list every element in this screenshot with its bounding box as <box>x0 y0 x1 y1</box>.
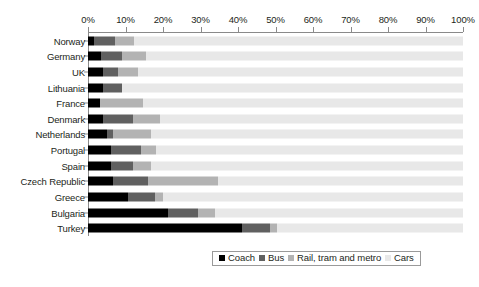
x-axis-tick-label: 60% <box>304 14 323 25</box>
x-axis-tick-label: 30% <box>191 14 210 25</box>
bar-segment <box>88 208 168 217</box>
x-axis-tick-label: 80% <box>379 14 398 25</box>
plot-area: NorwayGermanyUKLithuaniaFranceDenmarkNet… <box>0 33 479 245</box>
bar-segment <box>198 208 215 217</box>
legend-label: Rail, tram and metro <box>297 253 381 263</box>
category-label: Denmark <box>48 113 86 124</box>
chart-row: Bulgaria <box>0 205 479 221</box>
category-label: Lithuania <box>48 82 85 93</box>
bar-segment <box>103 68 118 77</box>
bar-segment <box>163 192 463 201</box>
bar-segment <box>88 99 100 108</box>
x-axis-tick-mark <box>238 27 239 32</box>
chart-row: Norway <box>0 33 479 49</box>
stacked-bar <box>88 99 463 108</box>
x-axis-tick-label: 10% <box>116 14 135 25</box>
bar-segment <box>122 83 463 92</box>
x-axis-tick-mark <box>126 27 127 32</box>
bar-segment <box>277 224 463 233</box>
bar-segment <box>113 177 148 186</box>
stacked-bar <box>88 208 463 217</box>
x-axis-tick-mark <box>388 27 389 32</box>
category-label: Netherlands <box>35 129 85 140</box>
bar-segment <box>133 161 151 170</box>
x-axis-tick-mark <box>313 27 314 32</box>
bar-segment <box>151 161 463 170</box>
category-label: Portugal <box>51 145 85 156</box>
bar-segment <box>88 177 113 186</box>
bar-segment <box>88 130 107 139</box>
bar-segment <box>138 68 463 77</box>
chart-row: UK <box>0 64 479 80</box>
bar-segment <box>155 192 163 201</box>
x-axis-tick-mark <box>351 27 352 32</box>
category-label: Czech Republic <box>21 176 85 187</box>
bar-segment <box>215 208 463 217</box>
chart-row: Germany <box>0 49 479 65</box>
legend-label: Coach <box>228 253 255 263</box>
bar-segment <box>218 177 463 186</box>
x-axis-tick-labels: 0%10%20%30%40%50%60%70%80%90%100% <box>0 14 479 28</box>
stacked-bar <box>88 146 463 155</box>
chart-row: Turkey <box>0 220 479 236</box>
bar-segment <box>115 36 134 45</box>
chart-row: Spain <box>0 158 479 174</box>
x-axis-tick-mark <box>201 27 202 32</box>
category-label: UK <box>72 67 85 78</box>
x-axis-tick-mark <box>463 27 464 32</box>
category-label: Bulgaria <box>51 207 85 218</box>
bar-segment <box>122 52 146 61</box>
legend-item: Bus <box>259 253 284 263</box>
bar-segment <box>156 146 464 155</box>
chart-row: France <box>0 95 479 111</box>
bar-segment <box>242 224 270 233</box>
bar-segment <box>128 192 155 201</box>
bar-segment <box>118 68 138 77</box>
bar-segment <box>100 99 143 108</box>
legend-item: Rail, tram and metro <box>288 253 381 263</box>
bar-segment <box>88 192 128 201</box>
bar-segment <box>148 177 218 186</box>
legend-item: Coach <box>219 253 255 263</box>
category-label: Spain <box>61 160 85 171</box>
x-axis-tick-label: 90% <box>416 14 435 25</box>
bar-segment <box>111 161 133 170</box>
bar-segment <box>141 146 156 155</box>
category-label: Germany <box>47 51 85 62</box>
bar-segment <box>146 52 463 61</box>
x-axis-tick-label: 50% <box>266 14 285 25</box>
legend-swatch-icon <box>259 255 265 261</box>
x-axis-tick-label: 0% <box>81 14 95 25</box>
legend-swatch-icon <box>385 255 391 261</box>
stacked-bar-chart: 0%10%20%30%40%50%60%70%80%90%100% Norway… <box>0 0 479 287</box>
x-axis-tick-label: 100% <box>451 14 475 25</box>
stacked-bar <box>88 192 463 201</box>
bar-segment <box>88 83 103 92</box>
stacked-bar <box>88 177 463 186</box>
stacked-bar <box>88 114 463 123</box>
bar-segment <box>160 114 463 123</box>
stacked-bar <box>88 36 463 45</box>
chart-row: Czech Republic <box>0 174 479 190</box>
bar-segment <box>88 114 103 123</box>
bar-segment <box>103 83 122 92</box>
bar-segment <box>88 68 103 77</box>
stacked-bar <box>88 224 463 233</box>
chart-row: Lithuania <box>0 80 479 96</box>
bar-segment <box>151 130 463 139</box>
bar-segment <box>94 36 115 45</box>
bar-segment <box>134 36 463 45</box>
bar-segment <box>88 52 101 61</box>
bar-segment <box>101 52 122 61</box>
legend-swatch-icon <box>219 255 225 261</box>
bar-segment <box>133 114 160 123</box>
bar-segment <box>111 146 141 155</box>
bar-segment <box>103 114 133 123</box>
chart-row: Greece <box>0 189 479 205</box>
bar-segment <box>88 224 242 233</box>
chart-legend: CoachBusRail, tram and metroCars <box>212 251 421 266</box>
chart-row: Portugal <box>0 142 479 158</box>
category-label: Norway <box>54 35 85 46</box>
bar-segment <box>88 146 111 155</box>
bar-segment <box>270 224 277 233</box>
